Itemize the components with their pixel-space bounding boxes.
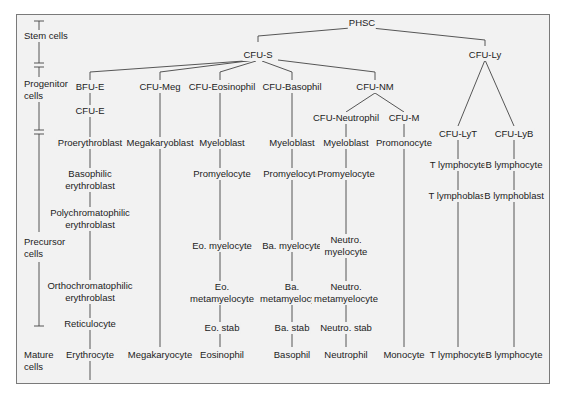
node-eo-metamyelocyte: Eo. metamyelocyte xyxy=(188,281,256,305)
node-monocyte: Monocyte xyxy=(382,349,425,361)
node-t-lymphoblast: T lymphoblast xyxy=(428,190,489,202)
node-neutro-myelocyte: Neutro. myelocyte xyxy=(320,234,372,258)
node-reticulocyte: Reticulocyte xyxy=(63,318,117,330)
node-t-lymphocyte: T lymphocyte xyxy=(429,349,487,361)
stage-mature-cells: Mature cells xyxy=(24,349,64,373)
node-cfu-lyt: CFU-LyT xyxy=(438,128,478,140)
node-eo-promyelocyte: Promyelocyte xyxy=(192,168,252,180)
node-cfu-s: CFU-S xyxy=(242,49,273,61)
node-ba-myelocyte: Ba. myelocyte xyxy=(261,240,323,252)
node-neutrophil: Neutrophil xyxy=(323,349,368,361)
node-cfu-nm: CFU-NM xyxy=(355,81,394,93)
node-phsc: PHSC xyxy=(348,17,376,29)
node-b-lymphocyte-early: B lymphocyte xyxy=(484,159,543,171)
node-ne-myeloblast: Myeloblast xyxy=(322,137,369,149)
node-orthochromatophilic-erythroblast: Orthochromatophilic erythroblast xyxy=(44,280,136,304)
node-megakaryocyte: Megakaryocyte xyxy=(127,349,193,361)
stage-progenitor-cells: Progenitor cells xyxy=(24,78,68,102)
node-cfu-neutrophil: CFU-Neutrophil xyxy=(312,112,380,124)
node-eo-stab: Eo. stab xyxy=(204,322,241,334)
node-t-lymphocyte-early: T lymphocyte xyxy=(429,159,487,171)
node-b-lymphocyte: B lymphocyte xyxy=(484,349,543,361)
node-basophilic-erythroblast: Basophilic erythroblast xyxy=(59,168,121,192)
node-ba-myeloblast: Myeloblast xyxy=(268,137,315,149)
node-promonocyte: Promonocyte xyxy=(375,137,433,149)
node-cfu-ly: CFU-Ly xyxy=(468,49,502,61)
node-cfu-e: CFU-E xyxy=(74,105,105,117)
node-cfu-eosinophil: CFU-Eosinophil xyxy=(188,81,257,93)
node-bfu-e: BFU-E xyxy=(75,81,106,93)
node-neutro-metamyelocyte: Neutro. metamyelocyte xyxy=(312,281,380,305)
node-ne-promyelocyte: Promyelocyte xyxy=(316,168,376,180)
node-eo-myeloblast: Myeloblast xyxy=(198,137,245,149)
node-ba-promyelocyte: Promyelocyte xyxy=(262,168,322,180)
node-erythrocyte: Erythrocyte xyxy=(65,349,115,361)
stage-stem-cells: Stem cells xyxy=(24,30,68,42)
node-cfu-m: CFU-M xyxy=(388,112,421,124)
node-eosinophil: Eosinophil xyxy=(199,349,245,361)
node-ba-stab: Ba. stab xyxy=(274,322,311,334)
stage-precursor-cells: Precursor cells xyxy=(24,236,68,260)
node-megakaryoblast: Megakaryoblast xyxy=(125,137,194,149)
node-cfu-meg: CFU-Meg xyxy=(138,81,181,93)
node-cfu-lyb: CFU-LyB xyxy=(494,128,535,140)
node-eo-myelocyte: Eo. myelocyte xyxy=(191,240,253,252)
node-neutro-stab: Neutro. stab xyxy=(319,322,373,334)
node-b-lymphoblast: B lymphoblast xyxy=(483,190,545,202)
node-polychromatophilic-erythroblast: Polychromatophilic erythroblast xyxy=(47,207,133,231)
node-proerythroblast: Proerythroblast xyxy=(57,137,123,149)
node-basophil: Basophil xyxy=(273,349,311,361)
node-cfu-basophil: CFU-Basophil xyxy=(261,81,322,93)
